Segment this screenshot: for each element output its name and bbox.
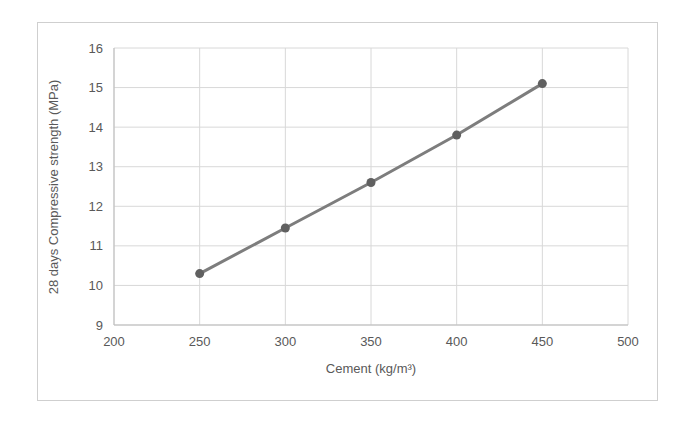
chart-frame: 200250300350400450500910111213141516 Cem…: [37, 22, 658, 401]
page: 200250300350400450500910111213141516 Cem…: [0, 0, 691, 422]
y-tick-label: 14: [89, 120, 103, 135]
data-point-marker: [195, 269, 204, 278]
y-axis-title: 28 days Compressive strength (MPa): [46, 80, 61, 295]
y-tick-label: 12: [89, 199, 103, 214]
x-tick-label: 350: [360, 334, 382, 349]
data-point-marker: [367, 178, 376, 187]
y-tick-label: 15: [89, 80, 103, 95]
chart-svg: 200250300350400450500910111213141516 Cem…: [38, 23, 657, 400]
y-tick-label: 16: [89, 41, 103, 56]
x-tick-label: 500: [617, 334, 639, 349]
x-tick-label: 400: [446, 334, 468, 349]
x-tick-label: 200: [103, 334, 125, 349]
data-point-marker: [538, 79, 547, 88]
data-point-marker: [452, 131, 461, 140]
y-tick-label: 9: [96, 318, 103, 333]
data-point-marker: [281, 224, 290, 233]
y-tick-label: 13: [89, 159, 103, 174]
tick-labels-group: 200250300350400450500910111213141516: [89, 41, 639, 350]
x-tick-label: 450: [531, 334, 553, 349]
x-axis-title: Cement (kg/m³): [326, 361, 416, 376]
x-tick-label: 250: [189, 334, 211, 349]
y-tick-label: 10: [89, 278, 103, 293]
y-tick-label: 11: [90, 238, 104, 253]
x-tick-label: 300: [274, 334, 296, 349]
